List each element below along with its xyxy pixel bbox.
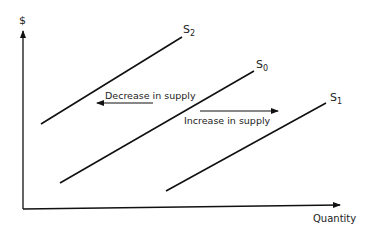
y-axis-label: $ bbox=[19, 14, 26, 27]
curve-label-s1: S1 bbox=[330, 91, 342, 106]
curve-label-s2: S2 bbox=[183, 23, 195, 38]
x-axis-label: Quantity bbox=[313, 213, 356, 224]
y-axis: $ bbox=[19, 14, 26, 209]
curve-label-s0: S0 bbox=[256, 58, 268, 73]
increase-label: Increase in supply bbox=[184, 115, 271, 126]
decrease-label: Decrease in supply bbox=[105, 90, 196, 101]
supply-curve-s2: S2 bbox=[41, 23, 195, 124]
decrease-annotation: Decrease in supply bbox=[97, 90, 196, 103]
increase-annotation: Increase in supply bbox=[184, 111, 278, 126]
x-axis: Quantity bbox=[23, 205, 356, 224]
supply-shift-diagram: $ Quantity S2 S0 S1 Decrease in supply I… bbox=[0, 0, 375, 232]
